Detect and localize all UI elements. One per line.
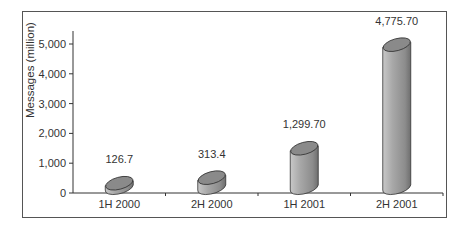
y-tick-label: 5,000 [38,38,66,50]
y-tick-label: 1,000 [38,157,66,169]
x-tick-label: 1H 2001 [283,198,325,210]
y-tick-label: 4,000 [38,68,66,80]
bar-chart: 01,0002,0003,0004,0005,0001H 20002H 2000… [0,0,470,229]
x-tick-label: 1H 2000 [98,198,140,210]
data-label: 1,299.70 [283,118,326,130]
x-tick-label: 2H 2000 [191,198,233,210]
bar: 313.4 [197,148,227,195]
data-label: 4,775.70 [375,15,418,27]
bar: 126.7 [104,153,134,194]
y-tick-label: 0 [60,187,66,199]
y-tick-label: 3,000 [38,98,66,110]
axes: 01,0002,0003,0004,0005,0001H 20002H 2000… [38,31,443,210]
data-label: 126.7 [105,153,133,165]
bar: 4,775.70 [375,15,418,195]
bars: 126.7313.41,299.704,775.70 [104,15,418,195]
x-tick-label: 2H 2001 [376,198,418,210]
bar: 1,299.70 [283,118,326,194]
y-tick-label: 2,000 [38,127,66,139]
data-label: 313.4 [198,148,226,160]
